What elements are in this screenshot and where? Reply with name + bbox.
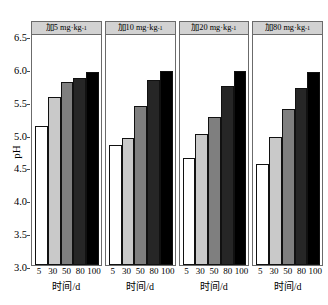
panel-title-text: 加80 mg·kg — [265, 24, 305, 32]
x-tick-label: 5 — [32, 266, 46, 277]
bar-50d — [208, 117, 221, 266]
panel-title: 加10 mg·kg-1 — [105, 21, 176, 35]
x-tick-label: 100 — [161, 266, 175, 277]
bar-100d — [307, 72, 320, 265]
bar-50d — [282, 109, 295, 265]
x-tick-label: 30 — [267, 266, 281, 277]
y-tick-mark — [27, 71, 30, 72]
panel-1: 加5 mg·kg-1 — [31, 21, 102, 266]
y-tick-mark — [27, 202, 30, 203]
x-tick-label: 80 — [221, 266, 235, 277]
x-tick-label: 30 — [193, 266, 207, 277]
x-axis-title: 时间/d — [252, 280, 323, 294]
panel-title: 加80 mg·kg-1 — [252, 21, 323, 35]
bar-group — [180, 35, 249, 265]
y-tick-label: 4.5 — [14, 164, 27, 174]
panel-2: 加10 mg·kg-1 — [105, 21, 176, 266]
plot-area — [31, 35, 102, 266]
x-axis-group-2: 5305080100时间/d — [105, 266, 176, 294]
bar-50d — [61, 82, 74, 265]
y-tick-label: 6.0 — [14, 66, 27, 76]
x-tick-labels: 5305080100 — [179, 266, 250, 277]
y-tick-mark — [27, 268, 30, 269]
x-tick-label: 100 — [87, 266, 101, 277]
panel-grid: 加5 mg·kg-1加10 mg·kg-1加20 mg·kg-1加80 mg·k… — [31, 21, 323, 266]
y-tick-label: 4.0 — [14, 197, 27, 207]
panel-4: 加80 mg·kg-1 — [252, 21, 323, 266]
x-tick-label: 100 — [308, 266, 322, 277]
x-tick-label: 50 — [60, 266, 74, 277]
bar-group — [253, 35, 322, 265]
y-tick-label: 5.5 — [14, 99, 27, 109]
y-tick-mark — [27, 104, 30, 105]
x-tick-label: 80 — [147, 266, 161, 277]
bar-5d — [256, 164, 269, 265]
plot-area — [179, 35, 250, 266]
panel-title-text: 加10 mg·kg — [118, 24, 158, 32]
y-tick-label: 6.5 — [14, 33, 27, 43]
x-tick-label: 100 — [235, 266, 249, 277]
y-axis-ticks: 3.03.54.04.55.05.56.06.5 — [0, 38, 30, 268]
x-tick-label: 80 — [295, 266, 309, 277]
x-tick-labels: 5305080100 — [105, 266, 176, 277]
x-tick-label: 5 — [106, 266, 120, 277]
bar-80d — [221, 86, 234, 265]
x-tick-label: 30 — [46, 266, 60, 277]
panel-title-exponent: -1 — [158, 24, 163, 32]
panel-title: 加20 mg·kg-1 — [179, 21, 250, 35]
ph-bar-chart: pH 3.03.54.04.55.05.56.06.5 加5 mg·kg-1加1… — [0, 0, 328, 305]
x-tick-label: 80 — [73, 266, 87, 277]
x-axis-title: 时间/d — [179, 280, 250, 294]
bar-5d — [183, 158, 196, 265]
bar-100d — [86, 72, 99, 265]
x-tick-label: 50 — [207, 266, 221, 277]
x-tick-label: 50 — [281, 266, 295, 277]
x-axis-row: 5305080100时间/d5305080100时间/d5305080100时间… — [31, 266, 323, 294]
y-tick-label: 3.5 — [14, 230, 27, 240]
x-axis-group-1: 5305080100时间/d — [31, 266, 102, 294]
y-tick-mark — [27, 169, 30, 170]
x-tick-label: 5 — [180, 266, 194, 277]
panel-3: 加20 mg·kg-1 — [179, 21, 250, 266]
y-tick-label: 3.0 — [14, 263, 27, 273]
plot-area — [105, 35, 176, 266]
panel-title-exponent: -1 — [231, 24, 236, 32]
bar-5d — [109, 145, 122, 265]
bar-100d — [234, 71, 247, 266]
x-axis-title: 时间/d — [105, 280, 176, 294]
panel-title-text: 加5 mg·kg — [46, 24, 82, 32]
y-tick-label: 5.0 — [14, 132, 27, 142]
x-tick-label: 5 — [253, 266, 267, 277]
panel-title-exponent: -1 — [82, 24, 87, 32]
bar-80d — [73, 78, 86, 265]
y-tick-mark — [27, 235, 30, 236]
x-axis-group-3: 5305080100时间/d — [179, 266, 250, 294]
bar-50d — [134, 106, 147, 265]
bar-80d — [147, 80, 160, 265]
panel-title: 加5 mg·kg-1 — [31, 21, 102, 35]
bar-80d — [295, 88, 308, 265]
y-tick-mark — [27, 137, 30, 138]
bar-30d — [195, 134, 208, 265]
bar-30d — [48, 97, 61, 265]
bar-group — [106, 35, 175, 265]
x-tick-labels: 5305080100 — [252, 266, 323, 277]
plot-area — [252, 35, 323, 266]
x-tick-label: 50 — [133, 266, 147, 277]
bar-30d — [269, 137, 282, 265]
panel-title-exponent: -1 — [305, 24, 310, 32]
bar-group — [32, 35, 101, 265]
bar-30d — [122, 138, 135, 265]
y-tick-mark — [27, 38, 30, 39]
panel-title-text: 加20 mg·kg — [191, 24, 231, 32]
bar-5d — [35, 126, 48, 265]
bar-100d — [160, 71, 173, 266]
x-axis-title: 时间/d — [31, 280, 102, 294]
x-tick-label: 30 — [120, 266, 134, 277]
x-axis-group-4: 5305080100时间/d — [252, 266, 323, 294]
x-tick-labels: 5305080100 — [31, 266, 102, 277]
